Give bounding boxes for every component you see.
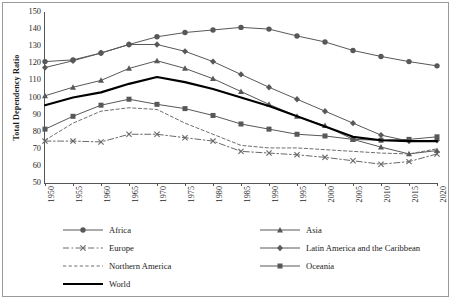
x-axis-tick-label: 1985 <box>244 186 252 202</box>
y-axis-tick-label: 50 <box>33 179 41 187</box>
chart-legend: AfricaAsiaEuropeLatin America and the Ca… <box>44 222 444 288</box>
data-point <box>182 48 188 54</box>
data-point <box>435 134 440 139</box>
y-axis-tick-label: 110 <box>29 76 41 84</box>
x-axis-tick <box>297 183 298 186</box>
data-point <box>322 39 327 44</box>
legend-key-icon <box>259 242 301 254</box>
x-axis-tick <box>437 183 438 186</box>
x-axis-tick <box>45 183 46 186</box>
legend-item-northern-america[interactable]: Northern America <box>62 260 171 272</box>
data-point <box>350 158 355 163</box>
data-point <box>183 106 188 111</box>
legend-key-icon <box>259 224 301 236</box>
x-axis-tick-label: 1955 <box>76 186 84 202</box>
legend-item-label: Oceania <box>306 261 334 271</box>
x-axis-tick <box>213 183 214 186</box>
data-point <box>238 25 243 30</box>
series-africa <box>42 25 439 69</box>
data-point <box>182 30 187 35</box>
y-axis-tick-label: 140 <box>28 25 41 33</box>
legend-item-oceania[interactable]: Oceania <box>259 260 334 272</box>
y-axis-title: Total Dependency Ratio <box>12 38 21 158</box>
data-point <box>350 120 356 126</box>
data-point <box>266 26 271 31</box>
series-world <box>45 77 437 141</box>
data-point <box>126 132 131 137</box>
data-point <box>238 71 244 77</box>
data-point <box>42 59 47 64</box>
data-point <box>238 88 244 94</box>
x-axis-tick <box>157 183 158 186</box>
data-point <box>267 127 272 132</box>
x-axis-tick <box>241 183 242 186</box>
x-axis-tick <box>353 183 354 186</box>
legend-item-label: Latin America and the Caribbean <box>306 243 420 253</box>
x-axis-tick-label: 2010 <box>384 186 392 202</box>
data-point <box>295 132 300 137</box>
y-axis-tick-label: 80 <box>33 127 41 135</box>
x-axis-tick-label: 1965 <box>132 186 140 202</box>
x-axis-tick <box>73 183 74 186</box>
legend-item-label: Europe <box>109 243 134 253</box>
x-axis-tick-label: 1975 <box>188 186 196 202</box>
data-point <box>294 33 299 38</box>
x-axis-tick-label: 1990 <box>272 186 280 202</box>
x-axis-tick-label: 2005 <box>356 186 364 202</box>
plot-area: 5060708090100110120130140150195019551960… <box>44 12 437 184</box>
data-point <box>210 27 215 32</box>
legend-item-label: Northern America <box>109 261 171 271</box>
data-point <box>98 50 104 56</box>
x-axis-tick-label: 2000 <box>328 186 336 202</box>
legend-item-europe[interactable]: Europe <box>62 242 134 254</box>
x-axis-tick <box>409 183 410 186</box>
x-axis-tick <box>185 183 186 186</box>
series-canvas <box>45 12 437 183</box>
x-axis-tick-label: 1970 <box>160 186 168 202</box>
x-axis-tick-label: 2015 <box>412 186 420 202</box>
data-point <box>238 149 243 154</box>
series-northern-america <box>45 108 437 154</box>
data-point <box>127 97 132 102</box>
data-point <box>154 58 160 64</box>
data-point <box>154 41 160 47</box>
data-point <box>155 102 160 107</box>
data-point <box>71 114 76 119</box>
y-axis-tick-label: 90 <box>33 110 41 118</box>
x-axis-tick <box>325 183 326 186</box>
data-point <box>266 84 272 90</box>
y-axis-tick-label: 120 <box>28 59 41 67</box>
x-axis-tick <box>129 183 130 186</box>
data-point <box>99 103 104 108</box>
legend-item-label: Africa <box>109 225 131 235</box>
legend-item-label: World <box>109 279 130 289</box>
x-axis-tick-label: 1995 <box>300 186 308 202</box>
y-axis-tick-label: 150 <box>28 8 41 16</box>
data-point <box>294 96 300 102</box>
data-point <box>322 108 328 114</box>
y-axis-tick-label: 60 <box>33 162 41 170</box>
legend-item-africa[interactable]: Africa <box>62 224 131 236</box>
legend-item-asia[interactable]: Asia <box>259 224 322 236</box>
legend-item-latin-america-and-the-caribbean[interactable]: Latin America and the Caribbean <box>259 242 420 254</box>
data-point <box>210 58 216 64</box>
legend-key-icon <box>62 278 104 290</box>
legend-item-world[interactable]: World <box>62 278 130 290</box>
data-point <box>154 34 159 39</box>
legend-key-icon <box>259 260 301 272</box>
data-point <box>211 113 216 118</box>
data-point <box>43 127 48 132</box>
chart-container: Total Dependency Ratio 50607080901001101… <box>0 0 453 300</box>
data-point <box>98 77 104 83</box>
data-point <box>434 63 439 68</box>
x-axis-tick <box>381 183 382 186</box>
x-axis-tick <box>269 183 270 186</box>
x-axis-tick-label: 1980 <box>216 186 224 202</box>
legend-key-icon <box>62 224 104 236</box>
data-point <box>126 41 132 47</box>
y-axis-tick-label: 130 <box>28 42 41 50</box>
x-axis-tick-label: 1950 <box>48 186 56 202</box>
y-axis-tick-label: 70 <box>33 145 41 153</box>
legend-key-icon <box>62 242 104 254</box>
data-point <box>350 48 355 53</box>
